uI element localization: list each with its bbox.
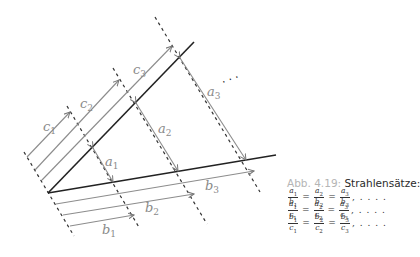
label-b1: b1 [102,222,116,239]
label-c2: c2 [80,96,93,113]
fraction: b2c2 [314,213,324,234]
label-b2: b2 [145,200,159,217]
ellipsis-dots: · · · [220,71,241,89]
dashed-line-2 [113,68,207,224]
label-b3: b3 [205,178,219,195]
label-a1: a1 [105,154,119,171]
dashed-line-0 [24,152,74,236]
fraction: b3c3 [340,213,350,234]
label-c1: c1 [43,119,56,136]
b-dimensions [56,171,254,226]
label-a2: a2 [158,121,172,138]
figure-caption: Abb. 4.19: Strahlensätze: a1b1 = a2b2 = … [287,178,406,230]
segment-a2 [136,103,178,171]
upper-ray [48,42,194,193]
lower-ray [48,155,276,193]
main-rays [48,42,276,193]
label-c3: c3 [133,62,146,79]
label-a3: a3 [207,84,221,101]
fraction: b1c1 [288,213,298,234]
caption-title: Strahlensätze: [344,177,420,189]
dim-b2 [63,194,194,215]
equation-row-b-c: b1c1 = b2c2 = b3c3 , . . . . [287,217,406,230]
